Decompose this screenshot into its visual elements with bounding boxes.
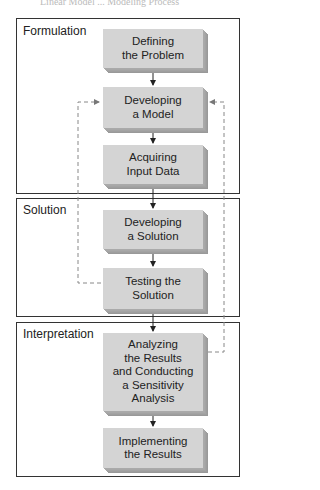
step-text: a Sensitivity: [113, 379, 194, 393]
step-text: a Model: [124, 108, 182, 122]
feedback-loop-right: [208, 102, 224, 352]
step-developing-model: Developinga Model: [103, 87, 203, 128]
step-text: a Solution: [124, 230, 182, 244]
step-text: Analyzing: [113, 338, 194, 352]
step-text: Solution: [125, 289, 181, 303]
step-text: Developing: [124, 216, 182, 230]
feedback-loop-left: [78, 102, 101, 283]
step-text: the Problem: [122, 49, 184, 63]
step-acquiring-data: AcquiringInput Data: [103, 145, 203, 184]
step-text: Analysis: [113, 392, 194, 406]
step-text: the Results: [118, 448, 187, 462]
step-text: and Conducting: [113, 365, 194, 379]
step-testing-solution: Testing theSolution: [103, 268, 203, 309]
step-defining-problem: Definingthe Problem: [103, 29, 203, 68]
step-text: the Results: [113, 352, 194, 366]
step-text: Acquiring: [126, 151, 179, 165]
step-text: Implementing: [118, 435, 187, 449]
step-text: Defining: [122, 35, 184, 49]
step-text: Input Data: [126, 165, 179, 179]
step-text: Testing the: [125, 275, 181, 289]
step-implementing-results: Implementingthe Results: [103, 428, 203, 468]
step-text: Developing: [124, 94, 182, 108]
step-developing-solution: Developinga Solution: [103, 210, 203, 249]
step-analyzing-results: Analyzing the Results and Conducting a S…: [103, 333, 203, 411]
